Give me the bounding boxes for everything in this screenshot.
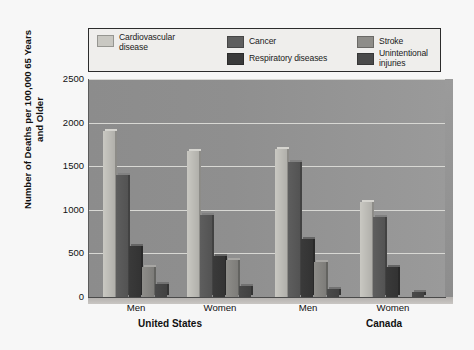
bar-face (288, 162, 300, 297)
bar-top (316, 260, 328, 262)
bar-group (187, 79, 252, 297)
bar-top (329, 287, 341, 289)
y-tick-label-1000: 1000 (44, 204, 84, 215)
bar-top (118, 173, 130, 175)
bar-face (373, 217, 385, 297)
legend-item-cardiovascular-disease: Cardiovascular disease (97, 33, 225, 50)
bar-face (142, 267, 154, 297)
bar (314, 262, 326, 297)
bar-group (275, 79, 340, 297)
bar-top (215, 254, 227, 256)
bar (129, 246, 141, 297)
plot-area (88, 79, 445, 297)
legend-item-unintentional-injuries: Unintentional injuries (357, 50, 434, 67)
x-tick-canada-men: Men (273, 302, 343, 313)
bar (373, 217, 385, 297)
bar (386, 267, 398, 297)
x-axis-line (88, 297, 446, 298)
bar-top (202, 213, 214, 215)
x-tick-us-women: Women (185, 302, 255, 313)
legend-item-cancer: Cancer (227, 33, 355, 50)
y-tick-label-0: 0 (44, 291, 84, 302)
legend-label-stroke: Stroke (379, 37, 403, 47)
bar-face (129, 246, 141, 297)
bar (275, 149, 287, 297)
bar (288, 162, 300, 297)
bar-top (241, 284, 253, 286)
bar-top (414, 290, 426, 292)
bar (213, 256, 225, 297)
legend-swatch-cardiovascular-disease (97, 35, 114, 47)
bar (226, 260, 238, 297)
bar-face (187, 151, 199, 297)
y-tick-label-500: 500 (44, 247, 84, 258)
bar (360, 202, 372, 297)
bar-top (375, 215, 387, 217)
legend-label-cancer: Cancer (249, 37, 276, 47)
legend-label-unintentional-injuries: Unintentional injuries (379, 49, 434, 68)
x-tick-canada-women: Women (358, 302, 428, 313)
y-tick-label-1500: 1500 (44, 160, 84, 171)
bar-top (189, 149, 201, 151)
x-group-united-states: United States (110, 318, 230, 329)
bar-face (155, 284, 167, 297)
y-tick-label-2500: 2500 (44, 73, 84, 84)
bar-face (103, 131, 115, 297)
bar (103, 131, 115, 297)
legend-swatch-unintentional-injuries (357, 53, 374, 65)
bar (142, 267, 154, 297)
bar-face (213, 256, 225, 297)
x-group-canada: Canada (324, 318, 444, 329)
bar-face (314, 262, 326, 297)
plot-wrapper (88, 79, 445, 297)
bar-face (226, 260, 238, 297)
bar-face (275, 149, 287, 297)
y-axis-ticks: 05001000150020002500 (38, 79, 84, 298)
bar-face (116, 175, 128, 297)
bar-side (398, 265, 400, 295)
plot-depth-side (445, 79, 453, 297)
bar-face (239, 286, 251, 297)
bar-top (290, 160, 302, 162)
bar-group (360, 79, 425, 297)
bar (301, 239, 313, 297)
bar (116, 175, 128, 297)
legend-swatch-stroke (357, 36, 374, 48)
bar-top (157, 282, 169, 284)
bar (239, 286, 251, 297)
legend-swatch-cancer (227, 36, 244, 48)
bar (187, 151, 199, 297)
bar-top (228, 258, 240, 260)
bar-top (388, 265, 400, 267)
bar-top (277, 147, 289, 149)
legend-label-respiratory-diseases: Respiratory diseases (249, 54, 327, 64)
bar (200, 215, 212, 297)
y-tick-label-2000: 2000 (44, 117, 84, 128)
bar-face (360, 202, 372, 297)
bar-top (144, 265, 156, 267)
chart-legend: Cardiovascular disease Cancer Stroke Res… (88, 28, 441, 72)
bar-top (362, 200, 374, 202)
bar-face (301, 239, 313, 297)
bar-top (303, 237, 315, 239)
legend-spacer (97, 50, 225, 67)
x-tick-us-men: Men (101, 302, 171, 313)
bar-top (131, 244, 143, 246)
bar-face (200, 215, 212, 297)
bar-face (386, 267, 398, 297)
legend-item-respiratory-diseases: Respiratory diseases (227, 50, 355, 67)
bar-group (103, 79, 168, 297)
bar (155, 284, 167, 297)
bar-top (105, 129, 117, 131)
legend-swatch-respiratory-diseases (227, 53, 244, 65)
chart-figure: Cardiovascular disease Cancer Stroke Res… (0, 0, 474, 350)
